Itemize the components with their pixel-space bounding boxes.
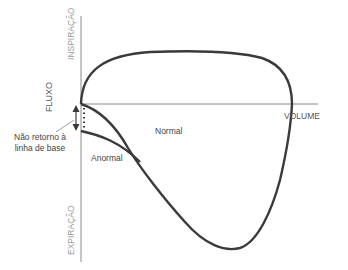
- expiration-label: EXPIRAÇÃO: [66, 205, 76, 255]
- abnormal-label: Anormal: [91, 153, 123, 163]
- inspiration-curve: [81, 51, 292, 104]
- flow-label: FLUXO: [44, 82, 54, 112]
- annotation-line2: linha de base: [15, 143, 66, 153]
- arrow-down-icon: [73, 124, 80, 131]
- normal-label: Normal: [155, 126, 183, 136]
- volume-label: VOLUME: [284, 111, 320, 121]
- annotation-leader: [56, 120, 74, 132]
- flow-volume-diagram: INSPIRAÇÃO FLUXO EXPIRAÇÃO VOLUME Normal…: [0, 0, 348, 270]
- normal-expiration-curve: [81, 104, 292, 249]
- annotation-line1: Não retorno à: [14, 132, 66, 142]
- inspiration-label: INSPIRAÇÃO: [66, 7, 76, 60]
- arrow-up-icon: [73, 105, 80, 112]
